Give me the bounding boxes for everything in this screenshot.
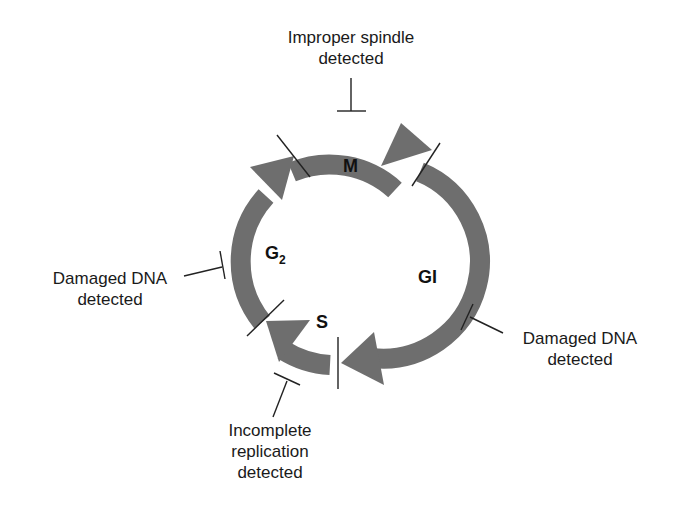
arc-g1 <box>372 172 480 359</box>
phase-label-s: S <box>316 312 328 333</box>
label-line: Damaged DNA <box>30 268 190 289</box>
label-line: Incomplete <box>200 420 340 441</box>
phase-label-g2-text: G <box>265 243 279 263</box>
arc-g2 <box>241 196 266 322</box>
checkpoint-label-dna-g2: Damaged DNA detected <box>30 268 190 310</box>
checkpoint-label-spindle: Improper spindle detected <box>266 27 436 69</box>
label-line: Damaged DNA <box>500 328 660 349</box>
label-line: detected <box>266 48 436 69</box>
arrowhead-m <box>381 123 432 166</box>
inhibitor-left-bar <box>220 251 225 279</box>
label-line: detected <box>200 462 340 483</box>
cell-cycle-diagram <box>0 0 682 514</box>
phase-label-g2-subscript: 2 <box>279 253 286 267</box>
inhibitor-right-stem <box>470 317 503 333</box>
inhibitor-bottom-stem <box>273 381 287 417</box>
label-line: detected <box>500 349 660 370</box>
label-line: Improper spindle <box>266 27 436 48</box>
phase-label-m: M <box>343 156 358 177</box>
arrowhead-g1 <box>341 332 384 385</box>
phase-label-g1: GI <box>418 267 437 288</box>
label-line: detected <box>30 289 190 310</box>
inhibitor-bottom-bar <box>274 373 300 385</box>
checkpoint-label-replication: Incomplete replication detected <box>200 420 340 483</box>
checkpoint-label-dna-g1: Damaged DNA detected <box>500 328 660 370</box>
phase-label-g2: G2 <box>265 243 286 267</box>
arc-s <box>283 350 330 365</box>
label-line: replication <box>200 441 340 462</box>
